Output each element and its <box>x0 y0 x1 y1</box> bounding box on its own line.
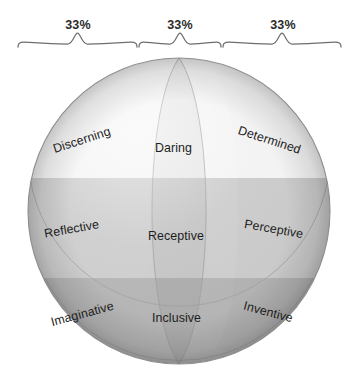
cell-label-top-center: Daring <box>155 141 192 155</box>
cell-label-bottom-center: Inclusive <box>152 311 201 325</box>
sphere-bands <box>0 25 358 384</box>
figure-canvas: 33% 33% 33% <box>0 0 358 384</box>
cell-label-middle-center: Receptive <box>148 229 204 243</box>
